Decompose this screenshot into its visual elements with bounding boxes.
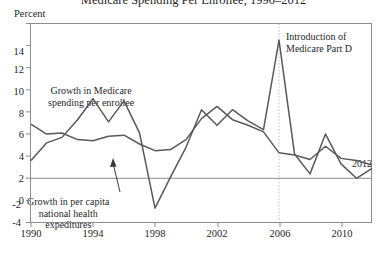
plot-frame xyxy=(31,24,372,223)
plot-canvas xyxy=(0,0,387,253)
x-axis-ticks xyxy=(31,223,342,228)
series-medicare-spending xyxy=(31,40,372,208)
chart-figure: Medicare Spending Per Enrollee, 1990–201… xyxy=(0,0,387,253)
nhe-leader-arrow xyxy=(110,158,120,192)
y-axis-ticks xyxy=(26,24,31,223)
